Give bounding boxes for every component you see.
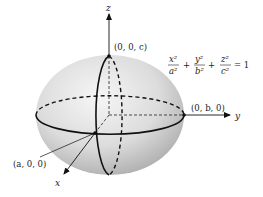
point-front-label: (a, 0, 0) <box>13 159 46 169</box>
point-right <box>182 113 186 117</box>
point-top-label: (0, 0, c) <box>114 42 147 52</box>
point-front <box>93 131 97 135</box>
eq-x-num: x² <box>169 54 178 64</box>
point-top <box>107 54 111 58</box>
eq-equals-one: = 1 <box>234 60 249 70</box>
eq-plus-1: + <box>183 60 190 70</box>
eq-a-den: a² <box>169 66 178 76</box>
ellipsoid-figure: z y x (0, 0, c) (0, b, 0) (a, 0, 0) x² a… <box>0 0 263 197</box>
eq-z-num: z² <box>220 54 229 64</box>
y-axis-label: y <box>234 111 241 121</box>
point-right-label: (0, b, 0) <box>191 103 225 113</box>
x-axis-label: x <box>55 178 60 188</box>
ellipsoid-equation: x² a² + y² b² + z² c² = 1 <box>168 54 249 76</box>
eq-y-num: y² <box>194 54 204 64</box>
eq-b-den: b² <box>195 66 204 76</box>
eq-c-den: c² <box>221 66 230 76</box>
z-axis-label: z <box>105 3 111 13</box>
eq-plus-2: + <box>208 60 215 70</box>
